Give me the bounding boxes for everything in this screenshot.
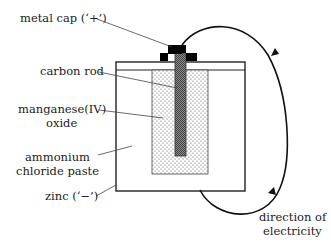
arrow-icon [271,48,279,56]
label-carbon-rod: carbon rod [40,64,105,78]
label-direction-line1: direction of [259,210,327,224]
label-ammonium-line2: chloride paste [16,164,99,178]
label-ammonium-line1: ammonium [25,150,90,164]
arrow-icon [268,187,276,195]
label-manganese-line1: manganese(IV) [18,102,106,116]
carbon-rod [175,53,186,156]
label-direction-line2: electricity [263,224,322,238]
label-manganese-line2: oxide [46,116,77,130]
label-zinc: zinc (‘−’) [45,189,98,203]
label-metal-cap: metal cap (‘+’) [20,11,107,25]
dry-cell-diagram: metal cap (‘+’) carbon rod manganese(IV)… [0,0,331,249]
